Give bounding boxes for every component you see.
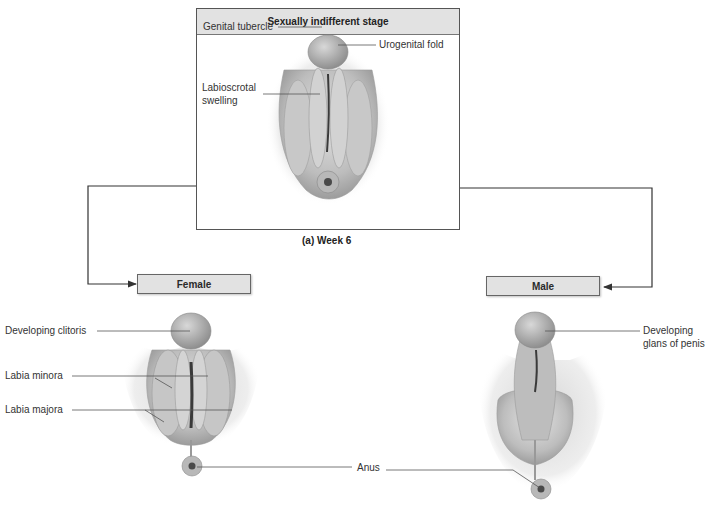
label-genital-tubercle: Genital tubercle [203, 21, 273, 33]
female-box: Female [137, 274, 251, 294]
male-illustration [477, 312, 609, 499]
connector-male [460, 188, 652, 287]
label-developing-clitoris: Developing clitoris [5, 325, 86, 337]
label-urogenital-fold: Urogenital fold [379, 39, 443, 51]
connector-female [88, 186, 196, 284]
label-labioscrotal-swelling-1: Labioscrotal [202, 82, 256, 94]
label-anus: Anus [355, 462, 382, 474]
label-labia-majora: Labia majora [5, 404, 63, 416]
label-labia-minora: Labia minora [5, 370, 63, 382]
female-illustration [120, 313, 262, 476]
label-developing-glans-1: Developing [643, 325, 693, 337]
male-box: Male [486, 276, 600, 296]
label-developing-glans-2: glans of penis [643, 338, 705, 350]
caption-week-6: (a) Week 6 [302, 235, 351, 246]
label-labioscrotal-swelling-2: swelling [202, 95, 238, 107]
